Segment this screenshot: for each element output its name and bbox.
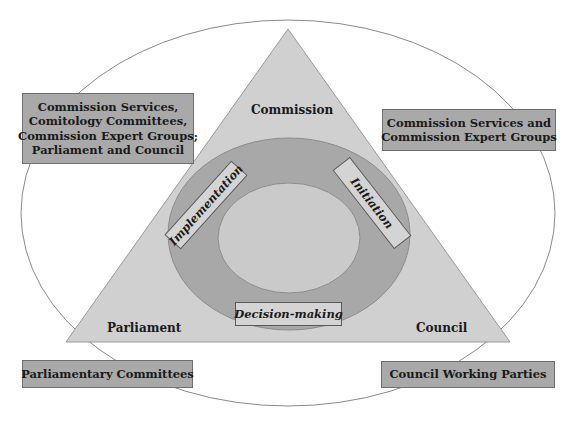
phase-decision-making: Decision-making <box>235 302 342 326</box>
vertex-label-parliament: Parliament <box>107 321 181 335</box>
actors-line: Comitology Committees, <box>29 114 187 129</box>
vertex-label-council: Council <box>416 321 467 335</box>
actors-line: Commission Expert Groups <box>381 130 557 145</box>
actors-line: Council Working Parties <box>389 367 546 382</box>
actors-line: Commission Services and <box>387 116 551 131</box>
actors-box-bottom-left: Parliamentary Committees <box>22 360 193 388</box>
vertex-label-commission: Commission <box>251 103 333 117</box>
actors-box-top-right: Commission Services and Commission Exper… <box>382 109 556 151</box>
actors-line: Parliament and Council <box>32 143 184 158</box>
actors-line: Commission Expert Groups; <box>18 129 198 144</box>
policy-cycle-center <box>218 183 360 293</box>
actors-line: Parliamentary Committees <box>21 367 194 382</box>
actors-box-top-left: Commission Services, Comitology Committe… <box>22 93 194 164</box>
actors-line: Commission Services, <box>38 100 178 115</box>
eu-policy-cycle-diagram: Commission Parliament Council Implementa… <box>0 0 575 434</box>
actors-box-bottom-right: Council Working Parties <box>381 361 555 388</box>
